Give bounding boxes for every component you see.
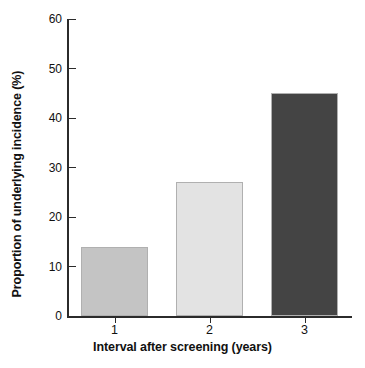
y-axis-tick-label: 40 [22,112,62,124]
x-axis-tick-label: 1 [95,324,135,337]
y-axis-tick-label: 10 [22,261,62,273]
y-axis-tick-label: 60 [22,13,62,25]
bar-2 [176,182,243,316]
bar-chart-figure: Proportion of underlying incidence (%) 0… [0,0,365,368]
x-axis-title: Interval after screening (years) [0,340,365,354]
y-axis-tick-label: 20 [22,211,62,223]
y-axis-tick-label: 30 [22,162,62,174]
x-axis-tick-label: 3 [285,324,325,337]
bar-1 [81,247,148,316]
plot-area [67,19,352,316]
x-axis-tick-label: 2 [190,324,230,337]
bar-3 [271,93,338,316]
y-axis-tick-label: 0 [22,310,62,322]
y-axis-tick-label: 50 [22,63,62,75]
